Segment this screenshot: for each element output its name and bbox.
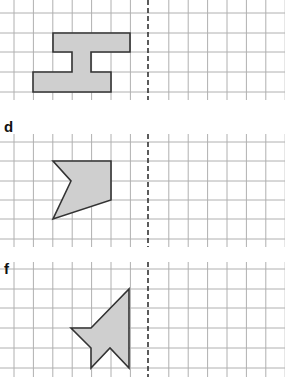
panel-label-f: f <box>4 261 9 276</box>
mirror-grid-diagram <box>0 0 285 377</box>
shape-panel-f <box>71 289 129 368</box>
panel-label-d: d <box>4 119 13 134</box>
shape-panel-c <box>33 33 130 92</box>
shape-panel-d <box>53 161 111 219</box>
